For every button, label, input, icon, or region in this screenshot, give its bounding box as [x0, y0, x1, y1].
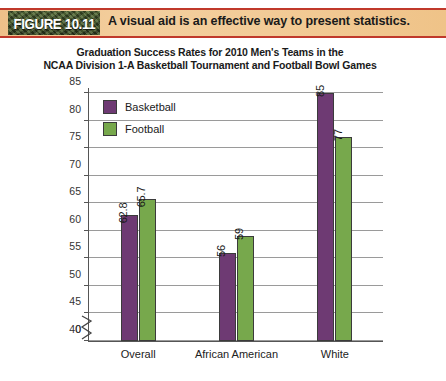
bar-value-label: 77 — [332, 129, 344, 141]
legend-label: Basketball — [125, 101, 176, 113]
bar-basketball[interactable]: 62.8 — [121, 215, 138, 341]
y-axis-label: 45 — [69, 295, 81, 307]
chart-legend: BasketballFootball — [103, 96, 176, 140]
bar-group: 5659African American — [187, 88, 285, 341]
bar-value-label: 62.8 — [117, 203, 129, 224]
legend-item[interactable]: Football — [103, 118, 176, 140]
bar-value-label: 85 — [314, 85, 326, 97]
y-axis-label: 55 — [69, 240, 81, 252]
legend-swatch-football — [103, 122, 117, 136]
bar-basketball[interactable]: 56 — [219, 253, 236, 341]
bar-value-label: 65.7 — [135, 187, 147, 208]
chart-plot-wrapper: 404550556065707580850 62.865.7Overall565… — [0, 0, 446, 381]
legend-item[interactable]: Basketball — [103, 96, 176, 118]
x-axis-label: Overall — [121, 348, 156, 360]
legend-label: Football — [125, 123, 164, 135]
bar-football[interactable]: 59 — [237, 236, 254, 341]
y-axis-label: 80 — [69, 103, 81, 115]
bar-football[interactable]: 65.7 — [139, 199, 156, 341]
y-axis-label: 70 — [69, 158, 81, 170]
chart-plot-area: 404550556065707580850 62.865.7Overall565… — [88, 88, 383, 342]
y-axis-label: 50 — [69, 268, 81, 280]
y-axis-label: 65 — [69, 185, 81, 197]
bar-group: 8577White — [286, 88, 384, 341]
bar-value-label: 59 — [233, 228, 245, 240]
y-axis-label: 85 — [69, 75, 81, 87]
y-axis-label: 60 — [69, 213, 81, 225]
bar-value-label: 56 — [215, 245, 227, 257]
y-axis-label: 75 — [69, 130, 81, 142]
legend-swatch-basketball — [103, 100, 117, 114]
x-axis-label: White — [321, 348, 349, 360]
axis-break-icon — [80, 315, 94, 341]
x-axis-label: African American — [195, 348, 278, 360]
bar-football[interactable]: 77 — [335, 137, 352, 341]
